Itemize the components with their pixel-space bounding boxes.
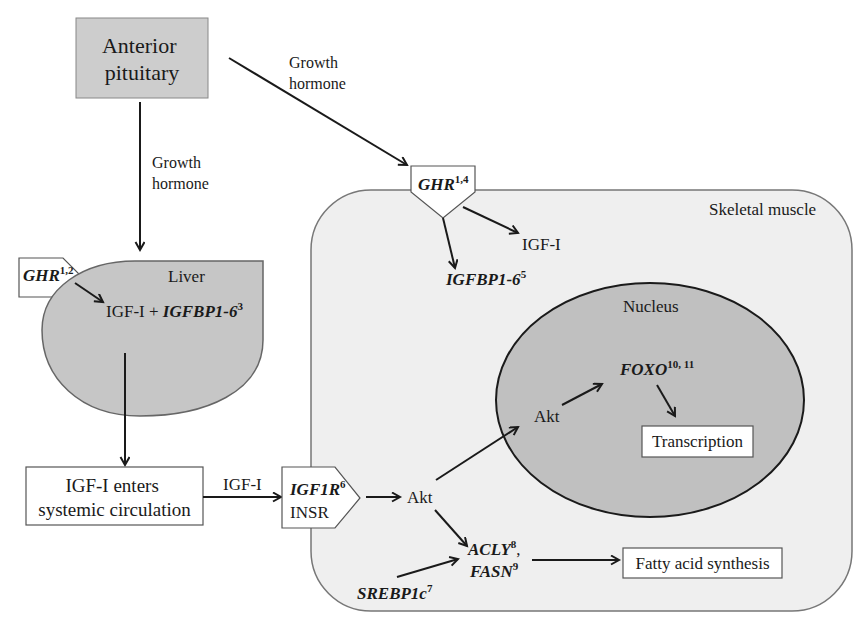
liver-igf-igfbp-label: IGF-I + IGFBP1-63 <box>106 300 243 321</box>
muscle-igfbp-label: IGFBP1-65 <box>445 268 527 289</box>
skeletal-muscle-label: Skeletal muscle <box>709 200 816 219</box>
igf1r-label: IGF1R6 <box>289 478 346 499</box>
muscle-akt-label: Akt <box>407 488 433 507</box>
igf-growth-hormone-pathway-diagram: Skeletal muscle Nucleus Anterior pituita… <box>0 0 866 633</box>
fasn-label: FASN9 <box>469 560 519 581</box>
nucleus-akt-label: Akt <box>534 407 560 426</box>
anterior-pituitary-box <box>76 18 208 98</box>
fatty-acid-synthesis-label: Fatty acid synthesis <box>635 554 769 573</box>
nucleus-label: Nucleus <box>623 297 679 316</box>
liver-label: Liver <box>168 267 205 286</box>
srebp1c-label: SREBP1c7 <box>357 582 433 603</box>
gh-to-liver-label: Growth hormone <box>152 154 209 192</box>
transcription-label: Transcription <box>652 432 743 451</box>
muscle-igf-i-label: IGF-I <box>522 235 561 254</box>
insr-label: INSR <box>290 503 329 522</box>
gh-to-muscle-label: Growth hormone <box>289 54 346 92</box>
nucleus-compartment <box>496 283 804 517</box>
igf-i-arrow-label: IGF-I <box>223 475 262 494</box>
